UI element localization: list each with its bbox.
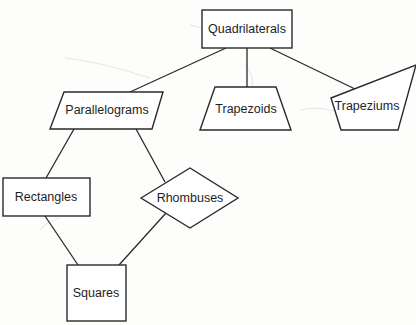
edge-rhombuses-squares (119, 213, 166, 265)
edge-parallelograms-rectangles (46, 129, 74, 178)
node-label: Squares (73, 286, 120, 300)
node-rhombuses: Rhombuses (141, 168, 238, 228)
node-label: Quadrilaterals (208, 22, 286, 36)
quadrilaterals-diagram: Quadrilaterals Parallelograms Trapezoids… (0, 0, 416, 325)
node-quadrilaterals: Quadrilaterals (202, 10, 292, 48)
edge-parallelograms-rhombuses (136, 129, 165, 182)
edges (45, 48, 355, 265)
node-label: Trapeziums (335, 99, 400, 113)
node-label: Rectangles (15, 190, 78, 204)
edge-quadrilaterals-parallelograms (130, 48, 226, 92)
node-label: Parallelograms (65, 103, 148, 117)
trapezium-shape (331, 65, 416, 130)
node-label: Trapezoids (215, 102, 276, 116)
node-parallelograms: Parallelograms (50, 92, 163, 129)
node-trapezoids: Trapezoids (200, 87, 291, 130)
node-label: Rhombuses (157, 191, 224, 205)
edge-rectangles-squares (45, 216, 78, 265)
node-trapeziums: Trapeziums (331, 65, 416, 130)
node-squares: Squares (67, 265, 126, 321)
edge-quadrilaterals-trapeziums (270, 48, 355, 89)
node-rectangles: Rectangles (3, 178, 90, 216)
